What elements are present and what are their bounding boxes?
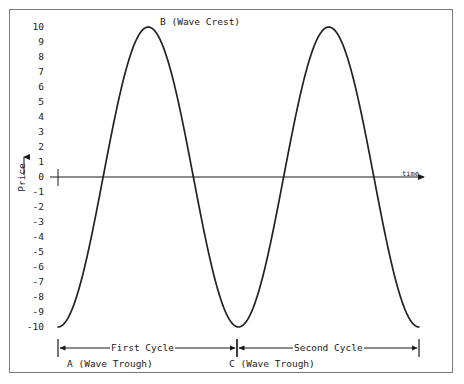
y-axis-tick-label: 6 xyxy=(22,82,44,92)
y-axis-tick-label: -6 xyxy=(22,262,44,272)
y-axis-tick-label: 9 xyxy=(22,37,44,47)
chart-figure: 109876543210-1-2-3-4-5-6-7-8-9-10 Price … xyxy=(0,0,464,384)
span-label-first-cycle: First Cycle xyxy=(110,342,175,353)
y-axis-tick-label: -7 xyxy=(22,277,44,287)
x-axis-title: time xyxy=(402,170,419,178)
annotation-wave-trough-c: C (Wave Trough) xyxy=(229,358,315,369)
y-axis-tick-label: -10 xyxy=(22,322,44,332)
y-axis-tick-label: -4 xyxy=(22,232,44,242)
y-axis-tick-label: 3 xyxy=(22,127,44,137)
y-axis-tick-label: 4 xyxy=(22,112,44,122)
y-axis-tick-label: -8 xyxy=(22,292,44,302)
chart-canvas xyxy=(0,0,464,384)
y-axis-tick-label: 7 xyxy=(22,67,44,77)
y-axis-tick-label: 10 xyxy=(22,22,44,32)
y-axis-tick-label: -5 xyxy=(22,247,44,257)
y-axis-title-group: Price xyxy=(12,150,28,230)
y-axis-tick-label: -9 xyxy=(22,307,44,317)
y-axis-tick-label: 5 xyxy=(22,97,44,107)
annotation-wave-crest-b: B (Wave Crest) xyxy=(160,16,240,27)
y-axis-title: Price xyxy=(16,153,27,203)
annotation-wave-trough-a: A (Wave Trough) xyxy=(67,358,153,369)
y-axis-tick-label: 8 xyxy=(22,52,44,62)
span-label-second-cycle: Second Cycle xyxy=(293,342,364,353)
